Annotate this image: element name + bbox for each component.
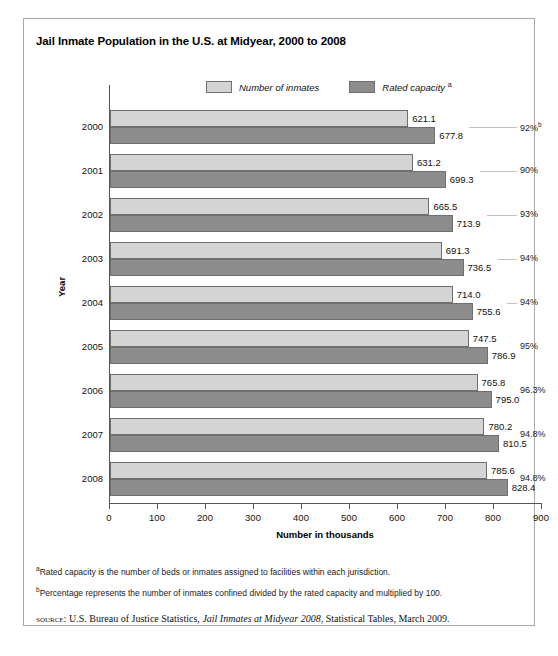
legend-label-inmates: Number of inmates (239, 82, 319, 93)
bar-value-label: 780.2 (488, 421, 512, 432)
percent-of-capacity-label: 96.3% (520, 385, 546, 395)
bar-rated-capacity[interactable] (110, 391, 492, 408)
percent-of-capacity-label: 94.8% (520, 473, 546, 483)
x-axis-tick (445, 503, 446, 509)
percent-of-capacity-label: 90% (520, 165, 538, 175)
bar-inmates[interactable] (110, 154, 413, 171)
y-axis-title: Year (56, 277, 67, 297)
percent-leader-line (469, 127, 517, 128)
bar-value-label: 736.5 (468, 262, 492, 273)
bar-inmates[interactable] (110, 462, 487, 479)
footnote-marker-a: a (448, 81, 452, 88)
bar-value-label: 713.9 (457, 218, 481, 229)
bar-group: 2000621.1677.892%b (110, 110, 542, 146)
source-pre: U.S. Bureau of Justice Statistics, (67, 613, 203, 624)
plot-area: 2000621.1677.892%b2001631.2699.390%20026… (109, 105, 541, 503)
x-axis-tick-label: 300 (245, 512, 261, 523)
bar-group: 2007780.2810.594.8% (110, 418, 542, 454)
footnote-b: bPercentage represents the number of inm… (36, 586, 442, 598)
source-post: , Statistical Tables, March 2009. (321, 613, 450, 624)
x-axis-tick (205, 503, 206, 509)
bar-value-label: 765.8 (482, 377, 506, 388)
x-axis-tick (109, 503, 110, 509)
legend-item-capacity: Rated capacity a (349, 81, 451, 93)
x-axis-tick (397, 503, 398, 509)
x-axis-tick (157, 503, 158, 509)
percent-of-capacity-label: 94.8% (520, 429, 546, 439)
percent-leader-line (487, 215, 517, 216)
bar-value-label: 747.5 (473, 333, 497, 344)
source-label: source: (36, 613, 67, 624)
x-axis-tick-label: 700 (437, 512, 453, 523)
percent-of-capacity-label: 94% (520, 297, 538, 307)
bar-value-label: 677.8 (439, 130, 463, 141)
bar-value-label: 755.6 (477, 306, 501, 317)
bar-group: 2001631.2699.390% (110, 154, 542, 190)
bar-group: 2004714.0755.694% (110, 286, 542, 322)
bar-inmates[interactable] (110, 330, 469, 347)
source-title: Jail Inmates at Midyear 2008 (202, 613, 320, 624)
legend-swatch-capacity (349, 81, 375, 93)
y-axis-tick-label: 2004 (82, 297, 103, 308)
y-axis-tick-label: 2007 (82, 429, 103, 440)
y-axis-tick-label: 2002 (82, 209, 103, 220)
y-axis-tick-label: 2008 (82, 473, 103, 484)
percent-of-capacity-label: 93% (520, 209, 538, 219)
bar-value-label: 691.3 (446, 245, 470, 256)
bar-inmates[interactable] (110, 198, 429, 215)
bar-rated-capacity[interactable] (110, 303, 473, 320)
bar-group: 2002665.5713.993% (110, 198, 542, 234)
bar-group: 2003691.3736.594% (110, 242, 542, 278)
bar-value-label: 699.3 (450, 174, 474, 185)
bar-rated-capacity[interactable] (110, 435, 499, 452)
bar-inmates[interactable] (110, 242, 442, 259)
bar-rated-capacity[interactable] (110, 347, 488, 364)
bar-rated-capacity[interactable] (110, 215, 453, 232)
x-axis-tick-label: 500 (341, 512, 357, 523)
y-axis-tick-label: 2003 (82, 253, 103, 264)
bar-rated-capacity[interactable] (110, 479, 508, 496)
footnote-a: aRated capacity is the number of beds or… (36, 565, 390, 577)
bar-value-label: 631.2 (417, 157, 441, 168)
legend-label-capacity: Rated capacity a (382, 81, 451, 93)
bar-value-label: 795.0 (496, 394, 520, 405)
x-axis-tick-label: 0 (106, 512, 111, 523)
page-title: Jail Inmate Population in the U.S. at Mi… (36, 35, 346, 47)
y-axis-tick-label: 2001 (82, 165, 103, 176)
x-axis-tick (349, 503, 350, 509)
percent-leader-line (507, 303, 517, 304)
footnote-a-text: Rated capacity is the number of beds or … (40, 567, 391, 577)
y-axis-tick-label: 2000 (82, 121, 103, 132)
source-line: source: U.S. Bureau of Justice Statistic… (36, 613, 450, 624)
bar-value-label: 714.0 (457, 289, 481, 300)
x-axis-tick-label: 200 (197, 512, 213, 523)
bar-rated-capacity[interactable] (110, 259, 464, 276)
x-axis-tick (301, 503, 302, 509)
bar-group: 2008785.6828.494.8% (110, 462, 542, 498)
x-axis-tick (493, 503, 494, 509)
bar-inmates[interactable] (110, 374, 478, 391)
x-axis-tick (541, 503, 542, 509)
bar-rated-capacity[interactable] (110, 127, 435, 144)
bar-inmates[interactable] (110, 418, 484, 435)
figure-panel: Jail Inmate Population in the U.S. at Mi… (23, 18, 535, 626)
bar-group: 2006765.8795.096.3% (110, 374, 542, 410)
percent-leader-line (480, 171, 517, 172)
footnote-b-text: Percentage represents the number of inma… (40, 588, 443, 598)
bar-inmates[interactable] (110, 110, 408, 127)
x-axis-tick-label: 900 (533, 512, 549, 523)
y-axis-tick-label: 2006 (82, 385, 103, 396)
x-axis-tick-label: 100 (149, 512, 165, 523)
x-axis-tick-label: 400 (293, 512, 309, 523)
x-axis-tick (253, 503, 254, 509)
bar-value-label: 828.4 (512, 482, 536, 493)
bar-value-label: 786.9 (492, 350, 516, 361)
bar-value-label: 621.1 (412, 113, 436, 124)
percent-of-capacity-label: 94% (520, 253, 538, 263)
x-axis-title: Number in thousands (109, 529, 541, 540)
y-axis-tick-label: 2005 (82, 341, 103, 352)
bar-group: 2005747.5786.995% (110, 330, 542, 366)
bar-inmates[interactable] (110, 286, 453, 303)
x-axis-line (109, 503, 542, 504)
bar-rated-capacity[interactable] (110, 171, 446, 188)
